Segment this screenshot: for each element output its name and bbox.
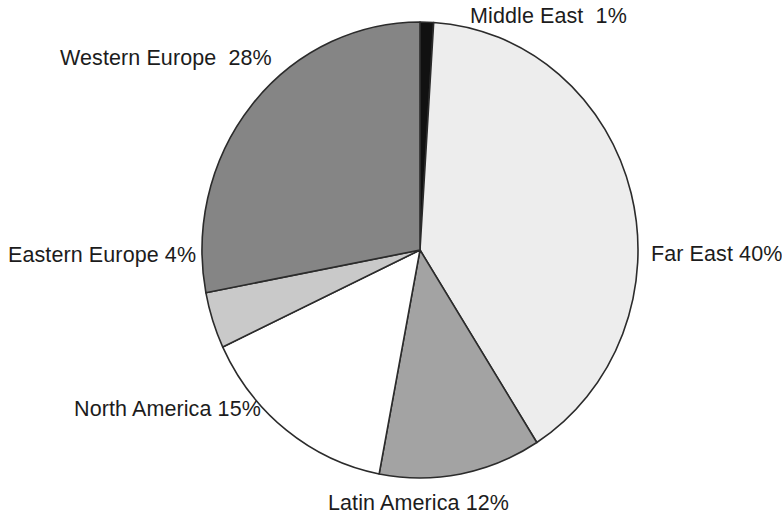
slice-label-middle-east: Middle East 1% (470, 5, 627, 29)
slice-label-western-europe: Western Europe 28% (60, 47, 272, 71)
pie-slices-group (202, 22, 638, 478)
slice-label-north-america: North America 15% (74, 398, 261, 422)
slice-label-eastern-europe: Eastern Europe 4% (8, 244, 196, 268)
slice-label-far-east: Far East 40% (651, 243, 782, 267)
slice-label-latin-america: Latin America 12% (328, 492, 509, 516)
